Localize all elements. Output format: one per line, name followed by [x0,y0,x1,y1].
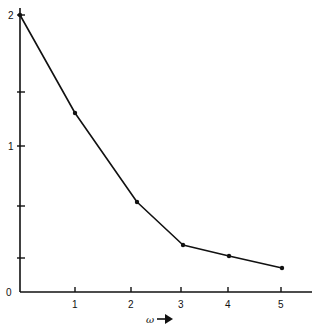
y-tick-label-1: 1 [8,141,14,152]
data-point [135,200,139,204]
y-ticks [17,15,25,258]
x-tick-label-3: 3 [178,299,184,310]
y-tick-label-0: 0 [6,287,12,298]
x-tick-label-2: 2 [128,299,134,310]
data-point [73,111,77,115]
line-chart: 2 1 0 1 2 3 4 5 ω [0,0,320,330]
x-tick-label-4: 4 [225,299,231,310]
x-axis-title: ω [146,314,154,325]
arrow-right-icon [157,314,173,324]
data-point [181,243,185,247]
data-point [227,254,231,258]
x-tick-label-5: 5 [278,299,284,310]
x-tick-label-1: 1 [72,299,78,310]
y-tick-label-2: 2 [8,10,14,21]
data-point [18,13,22,17]
data-point [280,266,284,270]
data-line [20,15,282,268]
data-markers [18,13,284,270]
